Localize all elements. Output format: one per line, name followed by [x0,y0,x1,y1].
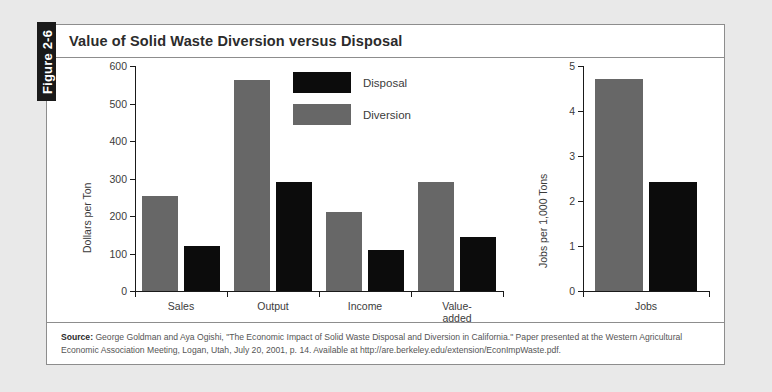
y-axis-tick-label: 100 [87,248,127,260]
figure-number-label: Figure 2-6 [39,29,54,93]
bar-diversion-output [234,80,270,291]
x-axis-tick [227,292,228,297]
x-axis-end-tick [503,292,504,297]
y-axis-tick-label: 0 [87,285,127,297]
y-axis-tick [578,201,583,202]
y-axis-tick [578,66,583,67]
source-text: George Goldman and Aya Ogishi, "The Econ… [61,332,682,355]
x-axis-tick [411,292,412,297]
bar-diversion-sales [142,196,178,291]
y-axis-tick-label: 4 [535,105,575,117]
chart-jobs-per-1000-tons: Jobs per 1,000 Tons 012345 Jobs [509,58,724,322]
y-axis-line [135,66,136,292]
category-label-income: Income [348,300,382,312]
y-axis-tick [130,66,135,67]
y-axis-tick-label: 600 [87,60,127,72]
category-label-output: Output [257,300,289,312]
y-axis-tick-label: 200 [87,210,127,222]
y-axis-tick [130,216,135,217]
category-label-sales: Sales [168,300,194,312]
source-note: Source: George Goldman and Aya Ogishi, "… [61,331,710,357]
category-label-jobs: Jobs [635,300,657,312]
figure-container: Value of Solid Waste Diversion versus Di… [46,24,725,365]
y-axis-tick [578,156,583,157]
y-axis-tick-label: 3 [535,150,575,162]
bar-disposal-income [368,250,404,291]
legend-swatch-diversion [293,104,351,125]
y-axis-tick [130,254,135,255]
bar-diversion-value-added [418,182,454,291]
legend-swatch-disposal [293,72,351,93]
bar-disposal-sales [184,246,220,291]
legend-label-disposal: Disposal [363,77,407,89]
y-axis-tick-label: 0 [535,285,575,297]
legend-item-disposal: Disposal [293,72,473,93]
y-axis-tick [130,141,135,142]
y-axis-tick [578,246,583,247]
bar-diversion-income [326,212,362,291]
legend-label-diversion: Diversion [363,109,411,121]
category-label-value-added: Value-added [433,300,481,324]
x-axis-end-tick [709,292,710,297]
y-axis-tick-label: 500 [87,98,127,110]
y-axis-tick-label: 2 [535,195,575,207]
y-axis-tick [578,111,583,112]
figure-title-bar: Value of Solid Waste Diversion versus Di… [47,25,724,58]
x-axis-line [583,291,710,292]
y-axis-title-right: Jobs per 1,000 Tons [537,174,549,268]
bar-diversion-jobs [595,79,643,291]
y-axis-tick [130,104,135,105]
y-axis-tick-label: 1 [535,240,575,252]
y-axis-line [583,66,584,292]
x-axis-end-tick [135,292,136,297]
y-axis-tick-label: 300 [87,173,127,185]
y-axis-tick-label: 400 [87,135,127,147]
bar-disposal-jobs [649,182,697,291]
legend: Disposal Diversion [293,72,473,136]
y-axis-tick [130,179,135,180]
legend-item-diversion: Diversion [293,104,473,125]
x-axis-tick [319,292,320,297]
charts-area: Dollars per Ton 0100200300400500600 Sale… [47,58,724,322]
source-divider [47,322,724,323]
bar-disposal-output [276,182,312,291]
figure-number-tab: Figure 2-6 [37,22,56,101]
y-axis-tick-label: 5 [535,60,575,72]
chart-dollars-per-ton: Dollars per Ton 0100200300400500600 Sale… [55,58,505,322]
bar-disposal-value-added [460,237,496,291]
x-axis-end-tick [583,292,584,297]
figure-title: Value of Solid Waste Diversion versus Di… [69,33,403,49]
source-label: Source: [61,332,93,342]
